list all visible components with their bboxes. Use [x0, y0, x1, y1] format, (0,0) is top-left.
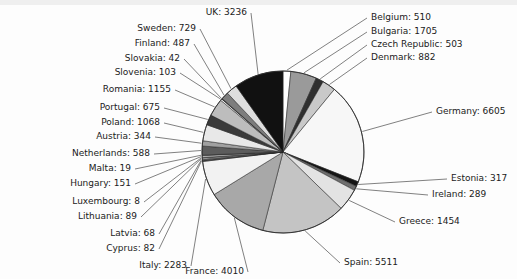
slice-label: Lithuania: 89 — [78, 211, 137, 221]
leader-line — [164, 123, 203, 132]
slice-label: Germany: 6605 — [436, 106, 506, 116]
slice-label: Slovenia: 103 — [115, 67, 176, 77]
slice-label: Greece: 1454 — [399, 216, 460, 226]
leader-line — [305, 231, 340, 263]
leader-line — [362, 112, 432, 131]
leader-line — [154, 151, 201, 154]
slice-label: France: 4010 — [185, 266, 244, 276]
leader-line — [234, 218, 248, 272]
slice-label: Belgium: 510 — [371, 12, 431, 22]
slice-label: Italy: 2283 — [139, 260, 187, 270]
slice-label: Bulgaria: 1705 — [371, 26, 437, 36]
leader-line — [287, 18, 367, 70]
slice-label: UK: 3236 — [206, 7, 248, 17]
leader-line — [184, 59, 221, 98]
pie-slices: Belgium: 510Bulgaria: 1705Czech Republic… — [202, 71, 364, 233]
slice-label: Denmark: 882 — [371, 52, 435, 62]
leader-line — [320, 45, 367, 79]
leader-line — [175, 90, 215, 107]
slice-label: Spain: 5511 — [344, 257, 398, 267]
leader-line — [349, 200, 395, 222]
slice-label: Sweden: 729 — [137, 23, 196, 33]
slice-label: Malta: 19 — [89, 163, 131, 173]
slice-label: Slovakia: 42 — [125, 53, 180, 63]
slice-label: Portugal: 675 — [100, 102, 160, 112]
slice-label: Estonia: 317 — [451, 173, 507, 183]
leader-line — [358, 179, 447, 185]
leader-line — [191, 179, 206, 266]
leader-line — [141, 159, 201, 217]
chart-svg: Belgium: 510Bulgaria: 1705Czech Republic… — [0, 0, 517, 279]
leader-line — [200, 29, 231, 89]
slice-label: Finland: 487 — [135, 38, 190, 48]
leader-line — [194, 44, 224, 95]
slice-label: Cyprus: 82 — [106, 243, 155, 253]
slice-label: Czech Republic: 503 — [371, 39, 463, 49]
slice-label: Hungary: 151 — [70, 178, 131, 188]
slice-label: Romania: 1155 — [103, 84, 171, 94]
leader-line — [251, 13, 258, 74]
slice-label: Netherlands: 588 — [72, 148, 150, 158]
slice-label: Poland: 1068 — [101, 117, 160, 127]
slice-label: Ireland: 289 — [432, 189, 486, 199]
pie-chart-figure: Belgium: 510Bulgaria: 1705Czech Republic… — [0, 0, 517, 279]
slice-label: Austria: 344 — [96, 131, 151, 141]
leader-line — [135, 157, 201, 184]
leader-line — [330, 58, 367, 84]
leader-line — [159, 160, 201, 234]
leader-line — [155, 137, 201, 143]
slice-label: Luxembourg: 8 — [72, 196, 140, 206]
slice-label: Latvia: 68 — [110, 228, 155, 238]
leader-line — [356, 189, 428, 195]
leader-line — [164, 108, 208, 119]
